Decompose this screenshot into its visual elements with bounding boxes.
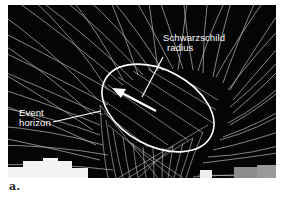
schwarzschild-leader-line xyxy=(142,57,163,97)
event-horizon-label: Event horizon xyxy=(19,108,51,128)
black-hole-diagram: Schwarzschild radius Event horizon xyxy=(8,5,276,178)
schwarzschild-radius-label: Schwarzschild radius xyxy=(163,33,225,53)
radius-arrow xyxy=(112,88,156,111)
event-horizon-ellipse xyxy=(87,46,229,169)
spacetime-grid xyxy=(8,5,276,178)
event-horizon-label-line2: horizon xyxy=(19,118,51,128)
schwarzschild-label-line2: radius xyxy=(163,43,225,53)
event-horizon-leader-line xyxy=(53,111,101,122)
figure-caption: a. xyxy=(9,180,20,193)
